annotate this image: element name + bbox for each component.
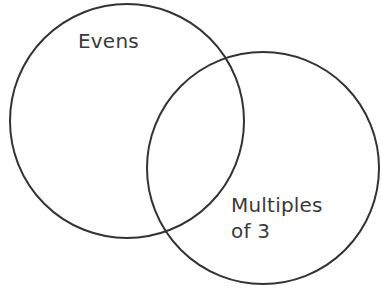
multiples-of-3-circle: [147, 52, 379, 284]
multiples-of-3-label-line2: of 3: [231, 218, 323, 244]
multiples-of-3-label: Multiples of 3: [231, 192, 323, 244]
evens-label: Evens: [78, 28, 139, 54]
multiples-of-3-label-line1: Multiples: [231, 192, 323, 218]
venn-circles: [0, 0, 381, 291]
